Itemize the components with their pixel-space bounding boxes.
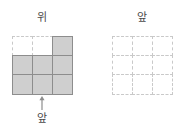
grid-cell[interactable] [32,36,53,56]
top-view-grid[interactable] [12,36,72,94]
grid-cell[interactable] [112,36,133,56]
top-view-label: 위 [22,11,62,24]
grid-cell[interactable] [12,55,33,75]
grid-cell[interactable] [52,36,73,56]
grid-cell[interactable] [52,55,73,75]
grid-cell[interactable] [32,55,53,75]
front-view-grid[interactable] [112,36,172,94]
grid-cell[interactable] [152,55,173,75]
worksheet-figure: 위 앞 앞 [0,0,183,137]
grid-cell[interactable] [152,36,173,56]
grid-cell[interactable] [12,36,33,56]
grid-cell[interactable] [132,55,153,75]
grid-cell[interactable] [132,74,153,94]
grid-cell[interactable] [112,55,133,75]
grid-cell[interactable] [52,74,73,94]
grid-cell[interactable] [132,36,153,56]
grid-cell[interactable] [112,74,133,94]
arrow-up-icon [38,96,46,110]
front-view-label: 앞 [122,11,162,24]
front-direction-label: 앞 [22,112,62,125]
grid-cell[interactable] [12,74,33,94]
grid-cell[interactable] [32,74,53,94]
grid-cell[interactable] [152,74,173,94]
